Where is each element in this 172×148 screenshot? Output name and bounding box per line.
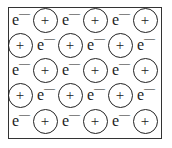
ion-label: + [141, 114, 149, 129]
positive-ion-icon: + [8, 33, 33, 58]
ion-label: + [91, 114, 99, 129]
positive-ion-icon: + [133, 8, 158, 33]
ion-label: + [116, 88, 124, 103]
ion-label: + [66, 88, 74, 103]
electron-label: e— [112, 111, 129, 129]
electron-label: e— [12, 10, 29, 28]
ion-label: + [141, 13, 149, 28]
positive-ion-icon: + [33, 109, 58, 134]
electron-label: e— [62, 60, 79, 78]
ion-label: + [91, 63, 99, 78]
positive-ion-icon: + [83, 8, 108, 33]
positive-ion-icon: + [83, 109, 108, 134]
positive-ion-icon: + [8, 83, 33, 108]
ion-label: + [141, 63, 149, 78]
ion-label: + [66, 38, 74, 53]
positive-ion-icon: + [133, 58, 158, 83]
positive-ion-icon: + [108, 33, 133, 58]
electron-label: e— [37, 85, 54, 103]
positive-ion-icon: + [58, 83, 83, 108]
positive-ion-icon: + [33, 8, 58, 33]
electron-label: e— [112, 60, 129, 78]
ion-label: + [116, 38, 124, 53]
electron-label: e— [62, 111, 79, 129]
ion-label: + [91, 13, 99, 28]
positive-ion-icon: + [58, 33, 83, 58]
electron-label: e— [137, 35, 154, 53]
positive-ion-icon: + [83, 58, 108, 83]
ion-label: + [16, 88, 24, 103]
positive-ion-icon: + [33, 58, 58, 83]
ion-label: + [41, 114, 49, 129]
electron-label: e— [87, 35, 104, 53]
electron-label: e— [37, 35, 54, 53]
ion-label: + [41, 63, 49, 78]
ion-label: + [41, 13, 49, 28]
electron-label: e— [62, 10, 79, 28]
electron-label: e— [12, 111, 29, 129]
electron-label: e— [87, 85, 104, 103]
electron-label: e— [12, 60, 29, 78]
electron-label: e— [137, 85, 154, 103]
ion-label: + [16, 38, 24, 53]
positive-ion-icon: + [133, 109, 158, 134]
positive-ion-icon: + [108, 83, 133, 108]
electron-label: e— [112, 10, 129, 28]
